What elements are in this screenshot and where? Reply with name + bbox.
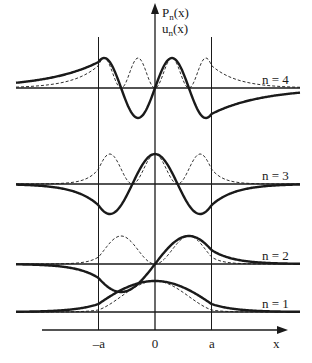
x-axis-arrow-icon — [277, 326, 288, 334]
probability-density-curve-n4 — [16, 58, 300, 88]
level-label-n2: n = 2 — [262, 248, 289, 263]
probability-density-curve-n3 — [16, 154, 300, 184]
y-axis-label-un: un(x) — [162, 21, 188, 38]
axes — [42, 3, 288, 334]
level-label-n3: n = 3 — [262, 168, 289, 183]
labels: Pn(x) un(x) x –a 0 a n = 4 n = 3 n = 2 n… — [92, 5, 289, 351]
x-tick-label-neg-a: –a — [92, 336, 106, 351]
y-axis-label-pn: Pn(x) — [162, 5, 189, 22]
y-axis-arrow-icon — [151, 3, 159, 14]
wavefunction-curve-n1 — [16, 281, 300, 312]
wavefunction-diagram: Pn(x) un(x) x –a 0 a n = 4 n = 3 n = 2 n… — [0, 0, 312, 363]
level-label-n1: n = 1 — [262, 296, 289, 311]
wavefunction-curves — [16, 58, 300, 312]
x-tick-label-a: a — [209, 336, 215, 351]
x-axis-label: x — [273, 336, 280, 351]
probability-density-curve-n1 — [16, 281, 300, 312]
level-label-n4: n = 4 — [262, 72, 289, 87]
x-tick-label-zero: 0 — [152, 336, 159, 351]
